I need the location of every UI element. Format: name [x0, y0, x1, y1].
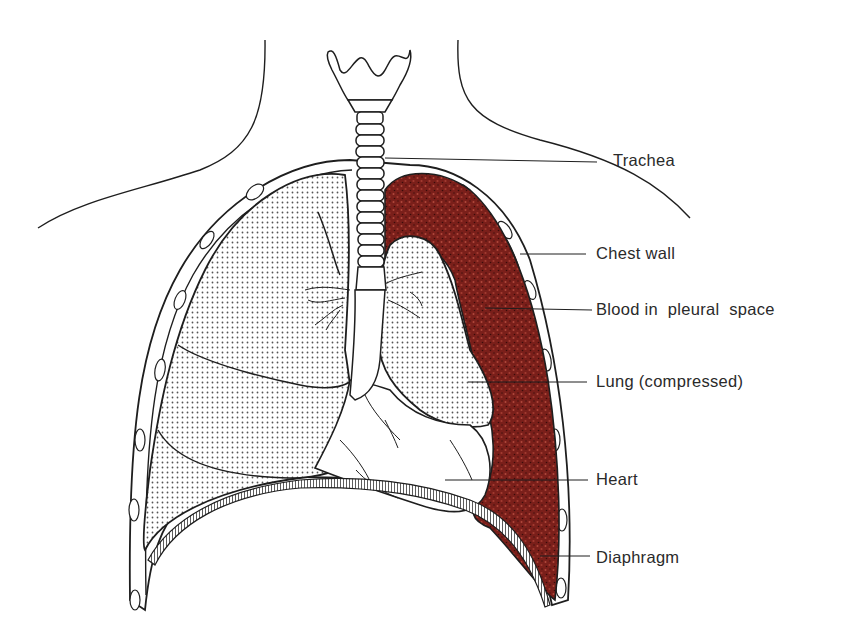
label-chest-wall: Chest wall	[596, 244, 675, 263]
label-heart: Heart	[596, 470, 638, 489]
leader-trachea	[385, 158, 597, 162]
label-diaphragm: Diaphragm	[596, 548, 679, 567]
label-blood-in-pleural-space: Blood in pleural space	[596, 300, 775, 319]
label-lung-compressed: Lung (compressed)	[596, 372, 743, 391]
label-trachea: Trachea	[613, 151, 675, 170]
